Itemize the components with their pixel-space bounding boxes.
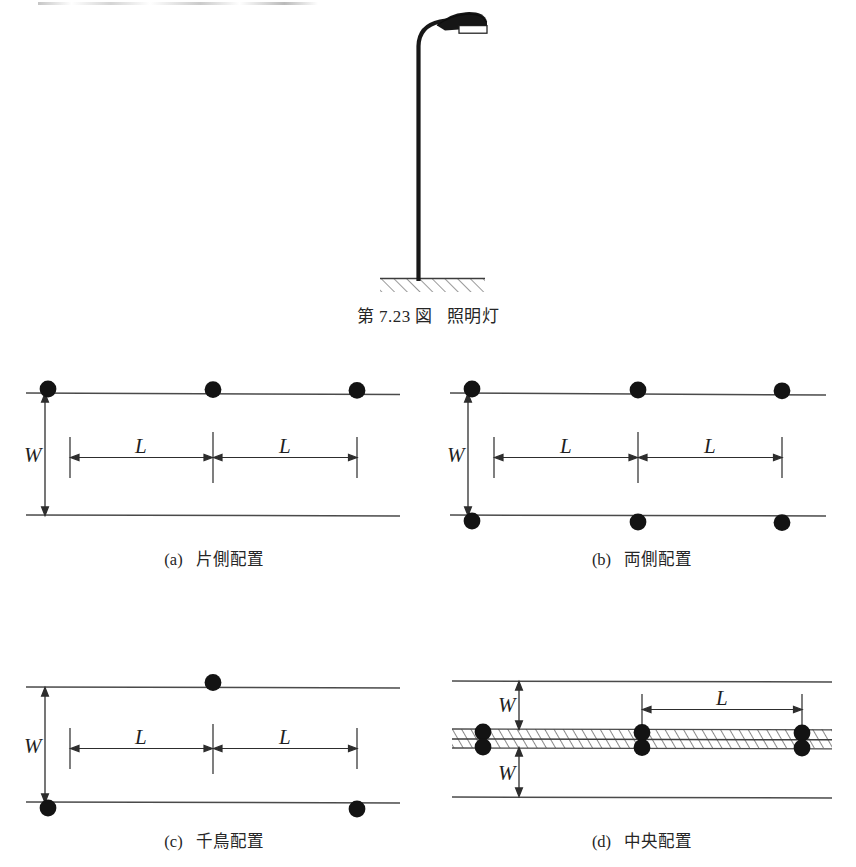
lamp-marker <box>205 674 222 691</box>
panel-d-title: 中央配置 <box>624 832 692 851</box>
panel-b-both-sides: W L L <box>428 366 856 616</box>
lamp-marker <box>794 740 811 757</box>
panel-d-index: (d) <box>592 832 611 852</box>
road-edge-top <box>452 681 832 682</box>
width-label-d-lower: W <box>498 761 518 785</box>
ground-hatch <box>380 278 485 292</box>
lamp-pole <box>419 20 453 281</box>
width-dimension <box>465 394 472 516</box>
width-dimension-upper <box>516 682 523 730</box>
lamp-marker <box>40 381 57 398</box>
panel-c-caption: (c)千鳥配置 <box>0 828 428 852</box>
spacing-label-c-2: L <box>278 725 291 749</box>
lamp-markers-top <box>464 381 791 400</box>
lamp-marker <box>475 724 492 741</box>
lamp-markers-top <box>40 381 366 399</box>
panel-c-staggered: W L L <box>0 656 428 867</box>
lamp-marker <box>634 739 651 756</box>
width-label-a: W <box>24 443 44 467</box>
width-label-b: W <box>447 443 467 467</box>
panel-d-central: W W L <box>428 656 856 867</box>
spacing-label-c-1: L <box>134 725 147 749</box>
lamp-marker <box>349 801 366 818</box>
width-dimension-lower <box>516 748 523 797</box>
lamp-marker <box>40 800 57 817</box>
lamp-marker <box>205 381 222 398</box>
panel-a-one-side: W L L <box>0 366 428 616</box>
panel-b-index: (b) <box>592 550 611 570</box>
width-label-d-upper: W <box>498 693 518 717</box>
lamp-marker <box>634 724 651 741</box>
width-dimension <box>42 688 49 803</box>
panel-c-title: 千鳥配置 <box>196 832 264 851</box>
panel-a-index: (a) <box>164 550 182 570</box>
street-light-figure <box>0 0 856 300</box>
road-edge-bottom <box>26 515 400 516</box>
lamp-marker <box>774 514 791 531</box>
lamp-markers-top <box>205 674 222 691</box>
lamp-marker <box>630 514 647 531</box>
lamp-marker <box>794 725 811 742</box>
spacing-label-d: L <box>715 686 728 710</box>
lamp-marker <box>475 739 492 756</box>
arrangement-panels: W L L <box>0 366 856 867</box>
spacing-label-b-2: L <box>703 434 716 458</box>
spacing-label-a-1: L <box>134 434 147 458</box>
lamp-head <box>437 12 487 33</box>
lamp-marker <box>774 382 791 399</box>
width-label-c: W <box>24 734 44 758</box>
width-dimension <box>42 394 49 516</box>
panel-a-caption: (a)片側配置 <box>0 546 428 570</box>
road-edge-bottom <box>26 802 400 803</box>
lamp-marker <box>349 382 366 399</box>
lamp-marker <box>464 513 481 530</box>
panel-c-index: (c) <box>164 832 182 852</box>
figure-caption: 第 7.23 図照明灯 <box>0 302 856 327</box>
panel-b-title: 両側配置 <box>624 550 692 569</box>
panel-a-title: 片側配置 <box>196 550 264 569</box>
panel-d-caption: (d)中央配置 <box>428 828 856 852</box>
spacing-label-a-2: L <box>278 434 291 458</box>
road-edge-bottom <box>452 797 832 798</box>
panel-b-caption: (b)両側配置 <box>428 546 856 570</box>
lamp-marker <box>630 382 647 399</box>
figure-number: 第 7.23 図 <box>357 307 433 326</box>
lamp-marker <box>464 381 481 398</box>
spacing-label-b-1: L <box>559 434 572 458</box>
figure-title: 照明灯 <box>447 307 500 326</box>
